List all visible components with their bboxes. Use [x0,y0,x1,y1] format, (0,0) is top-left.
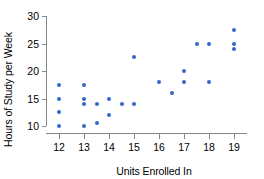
y-tick-mark [42,71,46,72]
x-tick-mark [209,134,210,139]
y-tick-mark [42,126,46,127]
data-point [232,42,236,46]
y-tick-label: 20 [15,65,39,77]
data-point [95,121,99,125]
y-tick-label: 30 [15,10,39,22]
x-tick-mark [184,134,185,139]
x-tick-mark [159,134,160,139]
data-point [57,110,61,114]
x-tick-label: 15 [128,141,140,153]
x-tick-label: 19 [228,141,240,153]
data-point [182,80,186,84]
data-point [120,102,124,106]
x-tick-label: 16 [153,141,165,153]
data-point [182,69,186,73]
data-point [57,83,61,87]
y-axis-line [46,16,47,126]
x-tick-label: 13 [78,141,90,153]
data-point [82,83,86,87]
data-point [232,47,236,51]
x-tick-mark [59,134,60,139]
x-axis-line [46,133,247,134]
data-point [57,124,61,128]
x-tick-mark [134,134,135,139]
data-point [107,113,111,117]
y-tick-label: 15 [15,93,39,105]
y-tick-mark [42,44,46,45]
data-point [132,102,136,106]
x-tick-label: 14 [103,141,115,153]
y-tick-mark [42,16,46,17]
y-tick-mark [42,99,46,100]
x-tick-mark [109,134,110,139]
data-point [107,97,111,101]
scatter-plot: Hours of Study per Week 1015202530121314… [0,0,264,179]
x-tick-mark [234,134,235,139]
plot-area: 10152025301213141516171819 [0,0,264,179]
data-point [82,124,86,128]
data-point [57,97,61,101]
x-tick-label: 17 [178,141,190,153]
data-point [82,97,86,101]
data-point [207,80,211,84]
data-point [132,55,136,59]
y-tick-label: 10 [15,120,39,132]
y-tick-label: 25 [15,38,39,50]
x-tick-label: 18 [203,141,215,153]
x-tick-mark [84,134,85,139]
data-point [195,42,199,46]
x-tick-label: 12 [53,141,65,153]
data-point [82,102,86,106]
data-point [207,42,211,46]
data-point [157,80,161,84]
data-point [232,28,236,32]
data-point [95,102,99,106]
x-axis-title: Units Enrolled In [44,165,264,177]
data-point [170,91,174,95]
